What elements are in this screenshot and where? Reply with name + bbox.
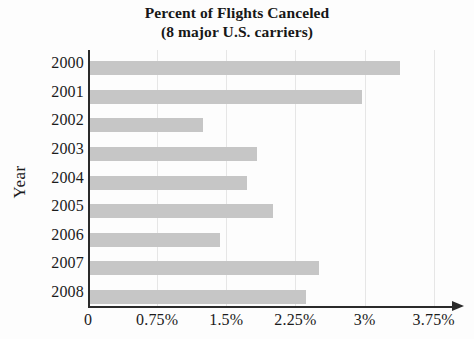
y-tick-2005: 2005 — [4, 197, 84, 215]
y-axis-line — [88, 50, 90, 308]
gridline-3% — [365, 50, 366, 307]
bar-2006 — [88, 233, 220, 247]
x-tick-3.75%: 3.75% — [413, 311, 455, 329]
x-axis-arrow-icon — [452, 301, 464, 311]
y-tick-2003: 2003 — [4, 140, 84, 158]
y-tick-2006: 2006 — [4, 226, 84, 244]
bar-2007 — [88, 261, 319, 275]
x-tick-3%: 3% — [354, 311, 376, 329]
bar-2002 — [88, 118, 203, 132]
x-tick-0.75%: 0.75% — [136, 311, 178, 329]
bar-2008 — [88, 290, 306, 304]
y-tick-2004: 2004 — [4, 169, 84, 187]
bar-2000 — [88, 61, 400, 75]
x-axis-line — [88, 306, 458, 308]
y-tick-2007: 2007 — [4, 254, 84, 272]
plot-area — [88, 50, 466, 307]
bar-2001 — [88, 90, 362, 104]
gridline-3.75% — [434, 50, 435, 307]
chart-figure: Percent of Flights Canceled (8 major U.S… — [0, 0, 474, 339]
y-axis-tick-labels: 200020012002200320042005200620072008 — [0, 0, 84, 339]
y-tick-2002: 2002 — [4, 111, 84, 129]
x-tick-0: 0 — [84, 311, 92, 329]
bar-2005 — [88, 204, 273, 218]
y-tick-2001: 2001 — [4, 83, 84, 101]
y-tick-2000: 2000 — [4, 54, 84, 72]
x-tick-2.25%: 2.25% — [274, 311, 316, 329]
y-tick-2008: 2008 — [4, 283, 84, 301]
x-tick-1.5%: 1.5% — [209, 311, 243, 329]
bar-2003 — [88, 147, 257, 161]
bar-2004 — [88, 176, 247, 190]
